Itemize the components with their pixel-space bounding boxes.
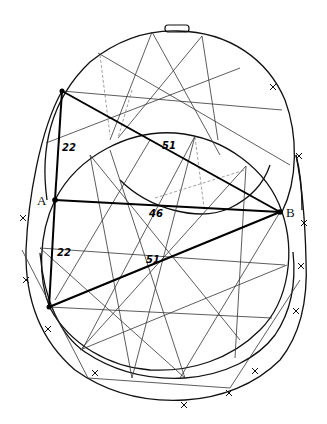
measure-topleft-B: 51 [162,140,176,151]
measure-topleft-A: 22 [62,142,76,153]
point-A [52,197,58,203]
point-bottom-left [47,305,52,310]
upper-circle [45,31,294,212]
segment-topleft-A [55,91,62,200]
point-B [277,209,283,215]
measure-bottomleft-B: 51 [146,254,160,265]
point-top-left [60,89,65,94]
segment-bottomleft-B [49,212,280,307]
geometric-construction-diagram: A B 22 51 46 22 51 [0,0,327,424]
measure-A-bottomleft: 22 [57,247,71,258]
measure-A-B: 46 [148,208,163,219]
segment-A-B [55,200,280,212]
label-B: B [286,205,295,220]
segment-topleft-B [62,91,280,212]
vertex-points [47,89,283,310]
label-A: A [37,193,47,208]
segment-A-bottomleft [49,200,55,307]
lower-outer-ring [40,165,294,378]
